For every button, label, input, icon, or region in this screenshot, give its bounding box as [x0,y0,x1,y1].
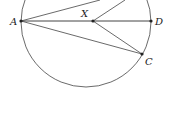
label-X: X [80,8,89,19]
label-A: A [9,16,17,27]
segment-AC [21,21,142,54]
segment-X-upper [93,0,125,21]
label-D: D [154,16,163,27]
point-A [19,19,22,22]
caption-text: ... [3,120,13,126]
geometry-diagram: A X D C [0,0,177,126]
label-C: C [145,56,153,67]
point-X [91,19,94,22]
truncated-caption: ... [0,118,177,126]
point-C [140,52,143,55]
point-D [149,19,152,22]
segment-XC [93,21,142,54]
segment-A-upper [21,0,100,21]
